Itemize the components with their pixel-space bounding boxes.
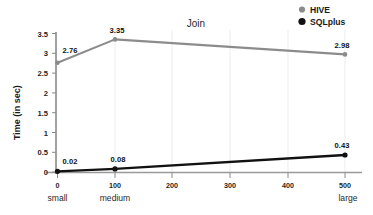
x-tick-label-100: 100	[109, 181, 121, 190]
y-tick-label-3: 3	[44, 49, 48, 58]
y-tick-label-2: 2	[44, 89, 48, 98]
x-tick-label-400: 400	[282, 181, 294, 190]
x-category-label-small: small	[47, 193, 67, 203]
series-line-sqlplus	[58, 155, 346, 171]
data-label-hive-large: 2.98	[335, 41, 350, 50]
series-line-hive	[58, 39, 346, 62]
line-chart: 3.5 3 2.5 2 1.5 1 0.5 0 Time (in sec) Jo…	[0, 0, 373, 215]
legend: HIVE SQLplus	[298, 5, 345, 27]
x-axis-ticks	[58, 173, 346, 179]
y-tick-label-3-5: 3.5	[37, 30, 48, 39]
x-tick-label-200: 200	[166, 181, 178, 190]
data-label-hive-medium: 3.35	[110, 26, 126, 35]
x-tick-label-500: 500	[339, 181, 351, 190]
data-label-sqlplus-large: 0.43	[335, 141, 350, 150]
legend-marker-sqlplus-icon	[298, 18, 305, 25]
y-axis-title: Time (in sec)	[12, 85, 22, 140]
y-tick-label-1: 1	[44, 129, 49, 138]
data-label-hive-small: 2.76	[63, 46, 78, 55]
x-category-label-medium: medium	[100, 193, 131, 203]
y-tick-label-0-5: 0.5	[37, 148, 48, 157]
legend-marker-hive-icon	[299, 6, 305, 12]
data-label-sqlplus-small: 0.02	[63, 157, 78, 166]
legend-label-sqlplus: SQLplus	[310, 17, 346, 27]
data-label-sqlplus-medium: 0.08	[111, 155, 126, 164]
y-tick-label-1-5: 1.5	[37, 109, 48, 118]
legend-label-hive: HIVE	[310, 5, 330, 15]
x-category-label-large: large	[338, 193, 357, 203]
x-tick-label-0: 0	[56, 181, 60, 190]
x-tick-label-300: 300	[224, 181, 236, 190]
chart-container: 3.5 3 2.5 2 1.5 1 0.5 0 Time (in sec) Jo…	[0, 0, 373, 215]
y-tick-label-0: 0	[44, 168, 48, 177]
chart-title: Join	[187, 18, 205, 29]
y-tick-label-2-5: 2.5	[37, 69, 48, 78]
